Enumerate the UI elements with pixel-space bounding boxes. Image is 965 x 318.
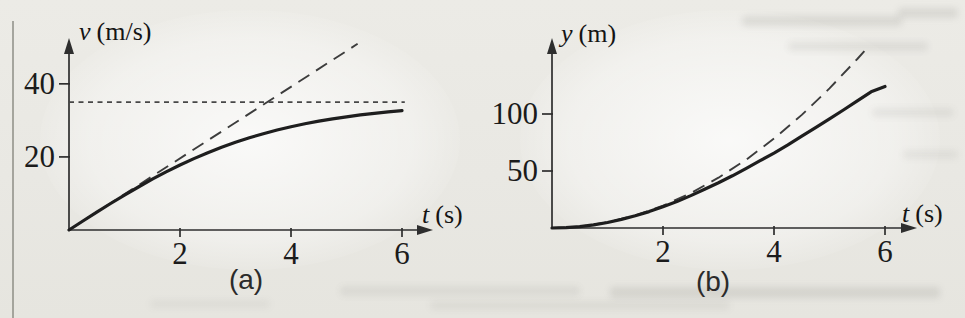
- series-long-dashed-curve: [552, 47, 868, 229]
- x-tick-label: 2: [655, 234, 671, 269]
- y-tick-label: 40: [24, 66, 55, 101]
- y-axis-unit-b: (m): [579, 19, 617, 48]
- scanned-figure: 246204024650100 v(m/s) t(s) y(m) t(s) (a…: [0, 0, 965, 318]
- series-solid-curve: [552, 87, 885, 229]
- x-axis-variable-a: t: [422, 200, 429, 229]
- panel-caption-b: (b): [683, 268, 743, 296]
- x-tick-label: 4: [766, 234, 782, 269]
- y-axis-variable-b: y: [561, 19, 573, 48]
- y-axis-unit-a: (m/s): [97, 17, 152, 46]
- y-tick-label: 100: [492, 96, 539, 131]
- y-axis-label-a: v(m/s): [79, 19, 151, 45]
- x-axis-variable-b: t: [902, 199, 909, 228]
- y-tick-label: 50: [507, 153, 538, 188]
- y-axis-variable-a: v: [79, 17, 91, 46]
- panel-caption-a: (a): [216, 266, 276, 294]
- x-tick-label: 4: [283, 236, 299, 271]
- x-tick-label: 6: [877, 234, 893, 269]
- series-solid-curve: [69, 111, 402, 230]
- x-tick-label: 2: [172, 236, 188, 271]
- y-axis-label-b: y(m): [561, 21, 616, 47]
- y-tick-label: 20: [24, 139, 55, 174]
- y-axis-arrowhead-icon: [547, 38, 557, 54]
- x-axis-unit-b: (s): [915, 199, 942, 228]
- x-axis-label-b: t(s): [902, 201, 943, 227]
- charts-canvas: 246204024650100: [0, 0, 965, 318]
- x-axis-unit-a: (s): [435, 200, 462, 229]
- y-axis-arrowhead-icon: [64, 38, 74, 54]
- x-tick-label: 6: [394, 236, 410, 271]
- x-axis-label-a: t(s): [422, 202, 463, 228]
